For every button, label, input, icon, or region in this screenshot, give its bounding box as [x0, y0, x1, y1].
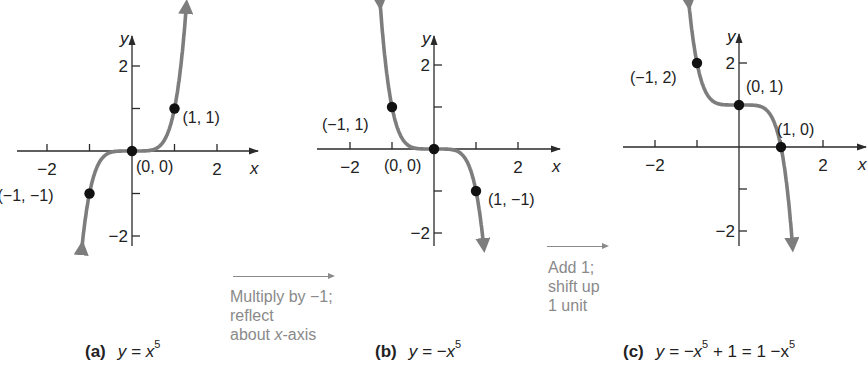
- y-tick-label: 2: [726, 54, 735, 73]
- caption-c-exp2: 5: [789, 338, 795, 350]
- point-label: (0, 1): [746, 78, 783, 95]
- y-tick-label: −2: [716, 222, 735, 241]
- x-axis-label: x: [249, 159, 259, 178]
- caption-c: (c)y = −x5 + 1 = 1 −x5: [623, 340, 795, 362]
- caption-a: (a)y = x5: [85, 340, 160, 362]
- transform-note-1-line-2: reflect: [230, 306, 333, 325]
- caption-b-letter: (b): [375, 342, 397, 361]
- plotted-point: [84, 188, 94, 198]
- caption-b-eq: y = −x: [409, 342, 455, 361]
- caption-c-rest: + 1 = 1 −x: [708, 342, 789, 361]
- point-label: (1, 1): [183, 109, 220, 126]
- figure-canvas: −222−2xy(−1, −1)(0, 0)(1, 1) −222−2xy(−1…: [0, 0, 867, 376]
- transform-note-2-line-2: shift up: [548, 277, 600, 296]
- point-label: (−1, −1): [0, 187, 54, 204]
- x-tick-label: 2: [513, 158, 522, 177]
- transform-note-2-line-3: 1 unit: [548, 296, 600, 315]
- graph-panel-a: −222−2xy(−1, −1)(0, 0)(1, 1): [0, 5, 259, 246]
- caption-a-exp: 5: [154, 338, 160, 350]
- y-axis-label: y: [119, 29, 130, 48]
- caption-a-eq: y = x: [118, 342, 154, 361]
- plotted-point: [776, 142, 786, 152]
- y-tick-label: −2: [109, 227, 128, 246]
- x-axis-label: x: [857, 155, 867, 174]
- transform-note-1-line-3: about x-axis: [230, 325, 333, 344]
- y-tick-label: 2: [119, 57, 128, 76]
- x-tick-label: −2: [37, 160, 56, 179]
- graph-panel-c: −222−2xy(−1, 2)(0, 1)(1, 0): [623, 5, 867, 247]
- plotted-point: [471, 186, 481, 196]
- graph-panel-b: −222−2xy(−1, 1)(0, 0)(1, −1): [317, 5, 561, 247]
- plotted-point: [127, 146, 137, 156]
- x-tick-label: 2: [818, 156, 827, 175]
- x-tick-label: −2: [645, 156, 664, 175]
- transform-arrow-2: [547, 246, 607, 247]
- x-tick-label: −2: [340, 158, 359, 177]
- point-label: (−1, 2): [630, 69, 677, 86]
- point-label: (1, 0): [777, 121, 814, 138]
- point-label: (1, −1): [488, 191, 535, 208]
- plotted-point: [429, 144, 439, 154]
- x-axis-label: x: [551, 157, 561, 176]
- y-tick-label: −2: [411, 224, 430, 243]
- transform-arrow-1: [233, 276, 333, 277]
- transform-note-2: Add 1; shift up 1 unit: [548, 258, 600, 315]
- caption-b-exp: 5: [455, 338, 461, 350]
- y-axis-label: y: [726, 27, 737, 46]
- caption-c-exp: 5: [702, 338, 708, 350]
- x-tick-label: 2: [212, 160, 221, 179]
- caption-c-eq: y = −x: [656, 342, 702, 361]
- y-axis-label: y: [421, 29, 432, 48]
- transform-note-1: Multiply by −1; reflect about x-axis: [230, 287, 333, 344]
- plotted-point: [692, 58, 702, 68]
- plotted-point: [169, 103, 179, 113]
- function-curve: [380, 5, 484, 247]
- function-curve: [82, 5, 186, 246]
- caption-c-letter: (c): [623, 342, 644, 361]
- y-tick-label: 2: [421, 56, 430, 75]
- transform-note-1-line-1: Multiply by −1;: [230, 287, 333, 306]
- caption-a-letter: (a): [85, 342, 106, 361]
- caption-b: (b)y = −x5: [375, 340, 461, 362]
- plotted-point: [387, 102, 397, 112]
- plotted-point: [734, 100, 744, 110]
- point-label: (0, 0): [384, 157, 421, 174]
- point-label: (0, 0): [136, 158, 173, 175]
- point-label: (−1, 1): [322, 116, 369, 133]
- transform-note-2-line-1: Add 1;: [548, 258, 600, 277]
